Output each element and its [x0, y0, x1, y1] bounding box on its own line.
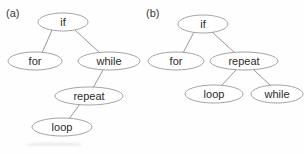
edge-if-for — [42, 30, 52, 53]
edge-if-for — [183, 32, 194, 53]
tree-diagrams-canvas: if for while repeat loop if — [0, 0, 304, 154]
edge-repeat-loop — [221, 70, 236, 86]
scan-artifact-smudge — [26, 142, 82, 147]
node-loop-label: loop — [52, 121, 73, 133]
edge-while-repeat — [93, 70, 103, 88]
node-loop[interactable]: loop — [32, 118, 92, 136]
node-loop-label: loop — [204, 88, 225, 100]
node-while-label: while — [263, 88, 289, 100]
tree-panel-b: if for repeat loop while — [148, 15, 303, 103]
node-loop[interactable]: loop — [185, 85, 243, 103]
node-repeat-label: repeat — [73, 90, 104, 102]
edges-panel-a — [42, 30, 103, 119]
node-for-label: for — [170, 55, 183, 67]
node-repeat[interactable]: repeat — [55, 87, 123, 105]
node-for[interactable]: for — [8, 52, 62, 70]
node-repeat[interactable]: repeat — [210, 52, 278, 70]
node-for-label: for — [29, 55, 42, 67]
node-while[interactable]: while — [78, 52, 140, 70]
node-if-label: if — [60, 16, 66, 28]
edge-if-repeat — [212, 32, 235, 53]
edge-repeat-while — [254, 70, 271, 86]
node-if-label: if — [200, 18, 206, 30]
node-for[interactable]: for — [148, 52, 204, 70]
node-while[interactable]: while — [251, 85, 303, 103]
node-if[interactable]: if — [178, 15, 228, 33]
tree-panel-a: if for while repeat loop — [8, 13, 140, 136]
edge-repeat-loop — [69, 104, 80, 119]
node-repeat-label: repeat — [228, 55, 259, 67]
edge-if-while — [75, 30, 100, 53]
node-if[interactable]: if — [38, 13, 88, 31]
node-while-label: while — [95, 55, 121, 67]
